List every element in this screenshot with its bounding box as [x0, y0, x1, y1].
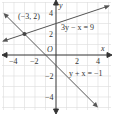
- x-axis-right-arrow-icon: [107, 53, 112, 58]
- x-tick-4: 4: [96, 57, 100, 66]
- coordinate-graph: (−3, 2) 3y − x = 9 y + x = −1 O x y −4 −…: [0, 0, 113, 114]
- line1-arrow-icon: [104, 5, 110, 9]
- x-tick-neg2: −2: [30, 57, 39, 66]
- y-axis-down-arrow-icon: [54, 109, 59, 114]
- y-axis-label: y: [58, 1, 63, 10]
- point-label: (−3, 2): [18, 12, 40, 21]
- x-tick-2: 2: [75, 57, 79, 66]
- origin-label: O: [47, 45, 53, 54]
- x-axis-left-arrow-icon: [2, 53, 7, 58]
- x-axis-label: x: [100, 44, 105, 53]
- y-tick-neg2: −2: [45, 72, 54, 81]
- intersection-point: [23, 32, 27, 36]
- y-tick-neg4: −4: [45, 93, 54, 102]
- x-tick-neg4: −4: [9, 57, 18, 66]
- line1-arrow-left-icon: [2, 38, 8, 42]
- line2-label: y + x = −1: [69, 69, 103, 78]
- y-tick-4: 4: [49, 9, 53, 18]
- y-tick-2: 2: [49, 30, 53, 39]
- line1-label: 3y − x = 9: [61, 23, 94, 32]
- y-axis-up-arrow-icon: [54, 0, 59, 5]
